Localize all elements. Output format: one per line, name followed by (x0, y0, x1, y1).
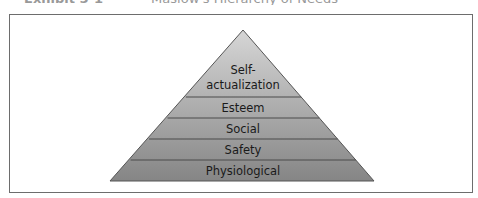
level-safety: Safety (225, 143, 262, 157)
maslow-pyramid: Self- actualization Esteem Social Safety… (0, 0, 478, 198)
level-self-actualization-line2: actualization (206, 78, 280, 92)
level-physiological: Physiological (206, 164, 281, 178)
level-esteem: Esteem (221, 101, 264, 115)
level-social: Social (226, 122, 260, 136)
level-self-actualization-line1: Self- (230, 63, 255, 77)
